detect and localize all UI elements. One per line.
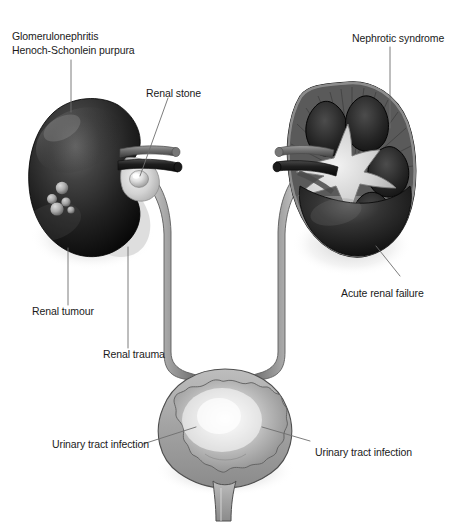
label-glomerulonephritis: Glomerulonephritis Henoch-Schonlein purp… bbox=[12, 30, 135, 57]
renal-stone bbox=[130, 171, 149, 188]
label-acute-renal-failure: Acute renal failure bbox=[341, 287, 424, 301]
urinary-bladder bbox=[158, 369, 292, 488]
label-renal-stone: Renal stone bbox=[146, 87, 201, 101]
urethra bbox=[213, 481, 236, 521]
label-uti-right: Urinary tract infection bbox=[315, 446, 412, 460]
label-glomerulonephritis-line2: Henoch-Schonlein purpura bbox=[12, 44, 135, 58]
label-nephrotic-syndrome: Nephrotic syndrome bbox=[352, 32, 444, 46]
label-uti-left: Urinary tract infection bbox=[52, 438, 149, 452]
label-glomerulonephritis-line1: Glomerulonephritis bbox=[12, 30, 135, 44]
label-renal-trauma: Renal trauma bbox=[103, 348, 165, 362]
label-renal-tumour: Renal tumour bbox=[32, 305, 94, 319]
